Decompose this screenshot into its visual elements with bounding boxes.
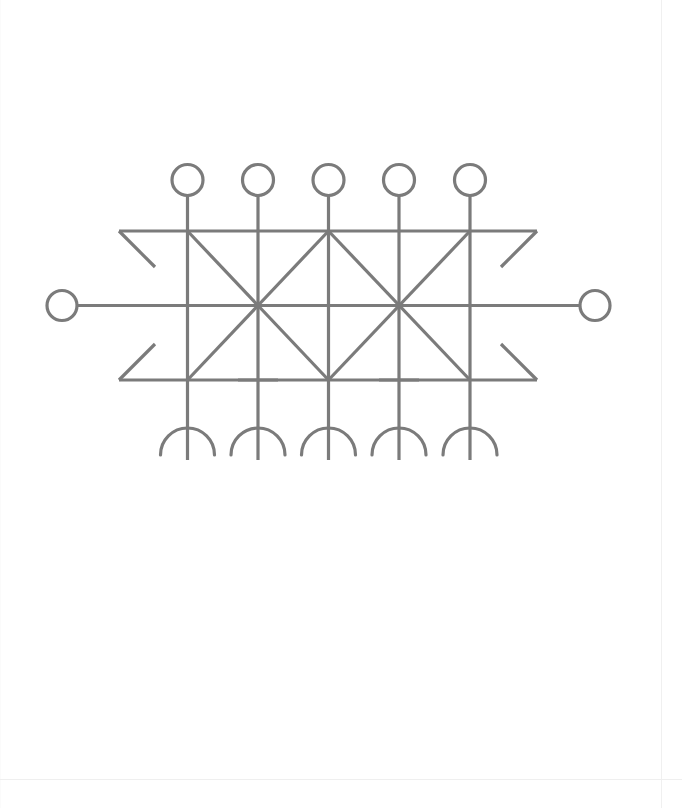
side-circle [580,291,610,321]
scanned-page: A horizontally symmetric line glyph: fiv… [0,0,682,808]
top-circle [455,165,486,196]
glyph-figure [0,0,682,808]
top-circle-group [172,165,486,196]
corner-flare [119,344,155,380]
corner-flare [119,231,155,267]
top-circle [243,165,274,196]
corner-flare [501,344,537,380]
top-circle [384,165,415,196]
top-circle [172,165,203,196]
top-circle [313,165,344,196]
vertical-stave-group [188,196,471,460]
corner-flare [501,231,537,267]
side-circle [47,291,77,321]
